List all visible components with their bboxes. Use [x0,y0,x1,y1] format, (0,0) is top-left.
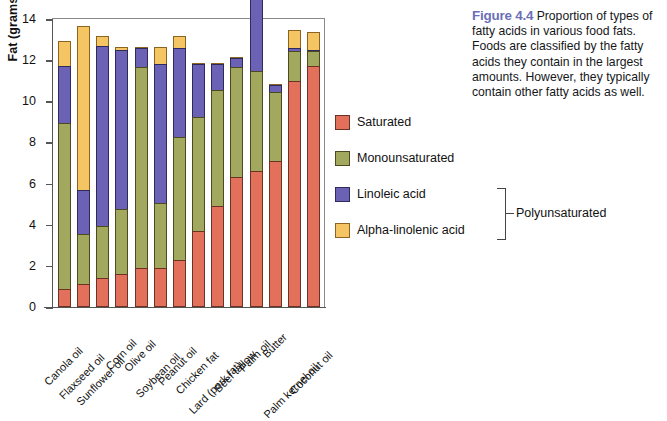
bar-segment-mono [230,67,243,178]
bar-segment-mono [173,137,186,260]
bar-sunflower-oil[interactable] [96,37,109,307]
bar-segment-sat [230,177,243,307]
x-label-palm-kernel-oil: Palm kernel oil [261,361,320,420]
y-tick-label-6: 6 [29,177,36,191]
legend-item-sat[interactable]: Saturated [335,104,535,140]
y-tick-label-0: 0 [29,300,36,314]
y-tick-label-14: 14 [22,12,36,26]
x-axis-line [44,307,326,309]
bar-peanut-oil[interactable] [173,37,186,307]
polyunsaturated-bracket-stem [506,213,514,214]
bar-segment-lin [96,46,109,227]
legend-label-mono: Monounsaturated [357,151,454,165]
y-tick-10: 10 [46,101,53,103]
y-tick-label-2: 2 [29,259,36,273]
bar-segment-mono [58,123,71,290]
bar-segment-sat [173,260,186,307]
bar-segment-lin [77,190,90,235]
bar-segment-sat [288,81,301,307]
bar-segment-mono [269,92,282,162]
x-label-soybean-oil: Soybean oil [133,351,182,400]
bar-segment-sat [307,66,320,307]
y-tick-label-8: 8 [29,135,36,149]
bar-segment-sat [211,206,224,307]
x-label-flaxseed-oil: Flaxseed oil [56,352,106,402]
bar-soybean-oil[interactable] [154,48,167,307]
bar-olive-oil[interactable] [135,48,148,307]
legend-label-lin: Linoleic acid [357,187,426,201]
y-tick-label-12: 12 [22,53,36,67]
bar-palm-kernel-oil[interactable] [288,31,301,307]
bar-segment-sat [135,268,148,307]
bar-segment-sat [115,274,128,307]
bar-segment-lin [135,48,148,69]
x-label-canola-oil: Canola oil [41,345,84,388]
bar-segment-mono [154,203,167,269]
bar-segment-lin [250,0,263,72]
bar-segment-ala [288,30,301,49]
bar-segment-mono [135,67,148,269]
bar-segment-sat [58,289,71,308]
bar-segment-sat [154,268,167,307]
x-label-peanut-oil: Peanut oil [156,345,199,388]
bar-flaxseed-oil[interactable] [77,27,90,307]
legend-label-ala: Alpha-linolenic acid [357,223,465,237]
bar-beef-tallow[interactable] [230,58,243,307]
x-label-coconut-oil: Coconut oil [288,349,335,396]
bar-group [53,19,324,307]
bar-segment-mono [96,226,109,279]
bar-segment-ala [77,26,90,191]
bar-segment-lin [58,66,71,124]
x-label-butter: Butter [260,331,289,360]
chart-plot-area: Fat (grams) 02468101214 Canola oilFlaxse… [0,0,340,417]
bar-segment-sat [192,231,205,307]
y-tick-4: 4 [46,225,53,227]
plot-frame-right [324,18,325,308]
bar-segment-mono [77,234,90,285]
bar-chicken-fat[interactable] [192,64,205,307]
y-tick-14: 14 [46,19,53,21]
legend-swatch-mono [335,151,350,166]
bar-canola-oil[interactable] [58,42,71,307]
figure-caption: Figure 4.4 Proportion of types of fatty … [472,8,660,100]
y-tick-label-4: 4 [29,218,36,232]
bar-segment-sat [250,171,263,307]
bar-segment-mono [192,117,205,232]
bar-segment-sat [269,161,282,307]
figure-caption-number: Figure 4.4 [472,8,533,23]
bar-butter[interactable] [269,85,282,307]
y-tick-8: 8 [46,142,53,144]
y-tick-label-10: 10 [22,94,36,108]
bar-lard-pork-fat[interactable] [211,64,224,307]
bar-palm-oil[interactable] [250,0,263,307]
bar-segment-ala [307,32,320,51]
polyunsaturated-label: Polyunsaturated [516,206,606,220]
x-label-olive-oil: Olive oil [122,338,158,374]
polyunsaturated-bracket [497,188,506,240]
bar-segment-lin [211,64,224,91]
bar-segment-lin [154,64,167,204]
x-label-beef-tallow: Beef tallow [212,348,259,395]
bar-segment-mono [288,51,301,82]
x-label-lard-pork-fat: Lard (pork fat) [186,359,243,416]
legend-swatch-ala [335,223,350,238]
legend-swatch-lin [335,187,350,202]
bar-segment-mono [250,71,263,172]
bar-segment-ala [154,47,167,66]
legend-swatch-sat [335,115,350,130]
bar-coconut-oil[interactable] [307,33,320,307]
legend-label-sat: Saturated [357,115,411,129]
x-label-sunflower-oil: Sunflower oil [74,355,127,408]
bar-segment-lin [115,50,128,210]
bar-segment-mono [115,209,128,275]
y-tick-2: 2 [46,266,53,268]
bar-segment-mono [211,90,224,207]
bar-corn-oil[interactable] [115,48,128,307]
y-tick-12: 12 [46,60,53,62]
bar-segment-sat [96,278,109,307]
bar-segment-lin [173,48,186,139]
x-label-chicken-fat: Chicken fat [173,349,220,396]
legend-item-mono[interactable]: Monounsaturated [335,140,535,176]
y-tick-6: 6 [46,184,53,186]
